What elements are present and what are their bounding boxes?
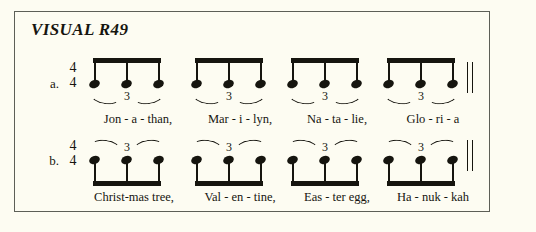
notehead xyxy=(120,154,133,165)
time-signature-unit: 4 xyxy=(65,153,81,168)
triplet-number: 3 xyxy=(90,90,164,103)
note-group: 3 xyxy=(383,56,459,112)
triplet-bracket: 3 xyxy=(384,139,458,156)
lyric-word: Mar - i - lyn, xyxy=(187,112,293,127)
time-signature-b: 4 4 xyxy=(65,138,81,168)
notehead xyxy=(286,154,299,165)
notehead xyxy=(446,154,459,165)
lyric-word: Eas - ter egg, xyxy=(285,190,389,205)
exercise-label-a: a. xyxy=(37,76,59,92)
notehead xyxy=(350,154,363,165)
triplet-bracket: 3 xyxy=(288,139,362,156)
triplet-number: 3 xyxy=(90,141,164,154)
exercise-row-b: b. 4 4 3 xyxy=(15,126,491,204)
note-group: 3 xyxy=(89,132,165,188)
double-barline xyxy=(467,62,474,93)
triplet-bracket: 3 xyxy=(384,88,458,105)
time-signature-unit: 4 xyxy=(65,75,81,90)
notehead xyxy=(190,154,203,165)
notehead xyxy=(254,154,267,165)
triplet-number: 3 xyxy=(384,141,458,154)
exercise-row-a: a. 4 4 3 xyxy=(15,50,491,128)
note-group: 3 xyxy=(383,132,459,188)
triplet-bracket: 3 xyxy=(90,139,164,156)
worksheet-frame: VISUAL R49 a. 4 4 3 xyxy=(14,11,490,212)
notehead xyxy=(88,154,101,165)
page-title: VISUAL R49 xyxy=(31,20,128,40)
triplet-number: 3 xyxy=(192,141,266,154)
note-group: 3 xyxy=(191,56,267,112)
lyric-word: Ha - nuk - kah xyxy=(379,190,487,205)
notehead xyxy=(414,154,427,165)
lyric-word: Jon - a - than, xyxy=(83,112,193,127)
triplet-number: 3 xyxy=(288,141,362,154)
time-signature-beats: 4 xyxy=(65,138,81,153)
double-barline xyxy=(467,140,474,171)
triplet-bracket: 3 xyxy=(288,88,362,105)
note-group: 3 xyxy=(89,56,165,112)
lyric-word: Val - en - tine, xyxy=(185,190,295,205)
note-group: 3 xyxy=(191,132,267,188)
lyric-word: Christ-mas tree, xyxy=(77,190,191,205)
triplet-bracket: 3 xyxy=(192,88,266,105)
exercise-label-b: b. xyxy=(37,153,59,169)
triplet-bracket: 3 xyxy=(192,139,266,156)
notehead xyxy=(152,154,165,165)
note-group: 3 xyxy=(287,56,363,112)
triplet-number: 3 xyxy=(288,90,362,103)
time-signature-a: 4 4 xyxy=(65,60,81,90)
triplet-number: 3 xyxy=(384,90,458,103)
notehead xyxy=(222,154,235,165)
lyric-word: Glo - ri - a xyxy=(381,112,485,127)
notehead xyxy=(382,154,395,165)
triplet-bracket: 3 xyxy=(90,88,164,105)
notehead xyxy=(318,154,331,165)
triplet-number: 3 xyxy=(192,90,266,103)
note-group: 3 xyxy=(287,132,363,188)
lyric-word: Na - ta - lie, xyxy=(285,112,389,127)
time-signature-beats: 4 xyxy=(65,60,81,75)
